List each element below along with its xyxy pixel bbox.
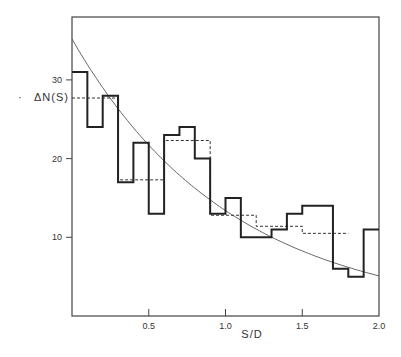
x-tick-label: 0.5 xyxy=(142,321,155,331)
y-tick-label: 10 xyxy=(52,232,62,242)
x-tick-label: 2.0 xyxy=(373,321,386,331)
y-tick-label: 30 xyxy=(52,75,62,85)
x-axis-ticks: 0.51.01.52.0 xyxy=(142,309,385,331)
chart: 102030 0.51.01.52.0 · ΔN(S) S/D xyxy=(0,0,401,357)
y-axis-dot: · xyxy=(18,91,23,103)
y-axis-label: ΔN(S) xyxy=(34,91,69,103)
x-tick-label: 1.5 xyxy=(296,321,309,331)
solid-histogram xyxy=(72,72,379,277)
y-tick-label: 20 xyxy=(52,154,62,164)
solid-step-line xyxy=(72,72,379,277)
x-tick-label: 1.0 xyxy=(219,321,232,331)
x-axis-label: S/D xyxy=(241,328,262,340)
